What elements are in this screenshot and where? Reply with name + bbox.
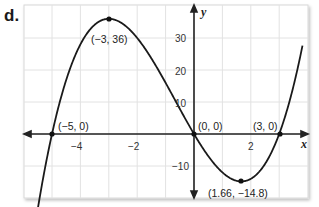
point-label: (3, 0) [253, 120, 278, 132]
y-tick-label: 20 [175, 66, 187, 77]
point-x-intercept-neg5 [49, 131, 54, 136]
y-tick-label: −10 [172, 161, 189, 172]
graph: −4 −2 2 30 20 10 −10 y x (−5, 0) (−3, 36… [0, 0, 319, 207]
point-label: (0, 0) [198, 120, 223, 132]
point-label: (−5, 0) [58, 120, 89, 132]
point-label: (−3, 36) [91, 33, 127, 45]
x-tick-label: −4 [71, 141, 83, 152]
y-tick-label: 30 [175, 33, 187, 44]
point-x-intercept-3 [277, 131, 282, 136]
x-tick-label: 2 [248, 141, 254, 152]
point-local-min [238, 178, 243, 183]
point-origin [191, 131, 196, 136]
y-tick-label: 10 [175, 98, 187, 109]
point-label: (1.66, −14.8) [208, 187, 268, 199]
x-axis-label: x [300, 137, 307, 151]
point-local-max [106, 16, 111, 21]
x-tick-label: −2 [128, 141, 140, 152]
y-axis-label: y [199, 5, 207, 19]
